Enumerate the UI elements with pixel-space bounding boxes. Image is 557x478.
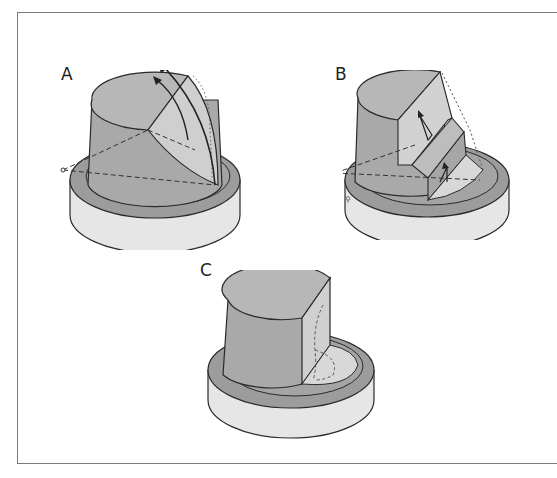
illustration-a	[60, 70, 250, 250]
svg-text:⚲: ⚲	[345, 195, 351, 204]
illustration-c	[205, 270, 380, 445]
figure-caption	[18, 468, 544, 478]
illustration-b: ⚲	[340, 70, 510, 240]
